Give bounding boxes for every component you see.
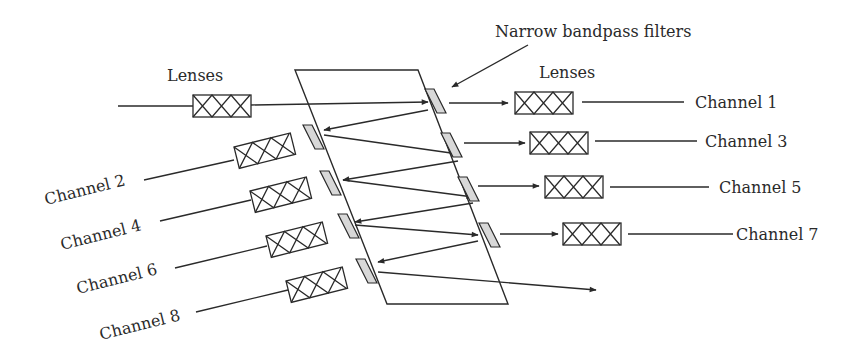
- channel-8-label: Channel 8: [97, 305, 182, 343]
- filter-ch1: [425, 89, 446, 113]
- channel-5-label: Channel 5: [719, 178, 802, 197]
- lens-ch6: [266, 222, 328, 257]
- filter-ch4: [320, 171, 341, 195]
- lens-ch5: [545, 176, 603, 198]
- wdm-diagram: Lenses Lenses Narrow bandpass filters Ch…: [0, 0, 862, 358]
- filter-ch5: [458, 177, 479, 201]
- filter-pointer-arrow: [452, 45, 528, 87]
- filters-label: Narrow bandpass filters: [495, 22, 691, 41]
- channel-2-label: Channel 2: [42, 170, 127, 208]
- lens-input: [193, 95, 251, 117]
- lens-ch7: [563, 223, 621, 245]
- channel-7-label: Channel 7: [736, 225, 819, 244]
- channel-1-label: Channel 1: [695, 93, 778, 112]
- lens-ch8: [286, 267, 348, 302]
- channel-3-label: Channel 3: [705, 132, 788, 151]
- lenses-right-label: Lenses: [539, 63, 595, 82]
- lens-ch1: [515, 92, 573, 114]
- filter-ch3: [441, 133, 462, 157]
- lens-ch3: [530, 132, 588, 154]
- channel-6-label: Channel 6: [74, 259, 159, 297]
- channel-4-label: Channel 4: [58, 215, 143, 253]
- lenses-left-label: Lenses: [167, 66, 223, 85]
- lens-ch2: [234, 133, 296, 168]
- lens-ch4: [250, 177, 312, 212]
